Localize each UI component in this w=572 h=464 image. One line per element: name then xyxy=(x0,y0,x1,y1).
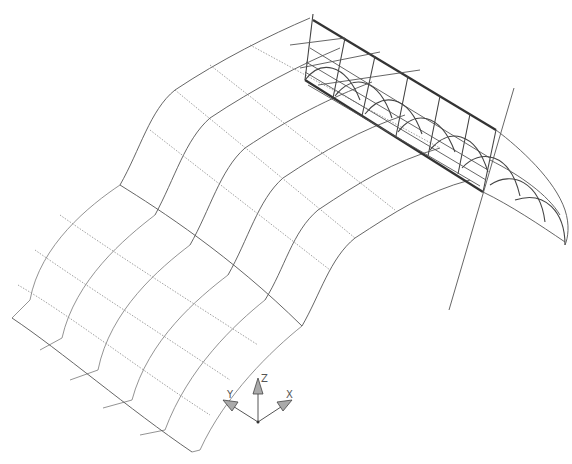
ucs-origin xyxy=(257,421,260,424)
lower-curve xyxy=(70,245,190,380)
end-arch-edge xyxy=(496,130,568,245)
end-arch-edge xyxy=(483,192,565,242)
box-diagonal xyxy=(290,38,345,45)
lower-curve xyxy=(12,185,120,318)
upper-curve xyxy=(120,18,310,185)
arch xyxy=(462,156,520,196)
x-label: X xyxy=(286,389,293,400)
box-end xyxy=(305,14,313,80)
drawing-canvas[interactable]: Z X Y xyxy=(0,0,572,464)
end-arch-edge xyxy=(490,160,560,215)
lower-cross-line xyxy=(120,185,302,326)
z-label: Z xyxy=(261,373,268,384)
upper-curve xyxy=(265,148,440,300)
upper-curve xyxy=(228,115,405,275)
y-arrow-icon xyxy=(223,400,238,411)
arch xyxy=(305,67,360,100)
arch xyxy=(398,118,455,152)
ucs-icon: Z X Y xyxy=(223,373,293,424)
box-longitudinal xyxy=(305,72,486,180)
lower-cross-line xyxy=(60,215,258,345)
box-longitudinal xyxy=(306,62,488,170)
box-rib xyxy=(458,114,470,174)
lower-curve xyxy=(103,275,228,408)
lower-cross-line xyxy=(35,250,230,380)
upper-surface xyxy=(120,18,470,326)
upper-curve xyxy=(302,180,470,326)
arch xyxy=(515,198,565,245)
lower-curve xyxy=(40,215,155,350)
upper-cross-line xyxy=(150,130,330,270)
upper-cross-line xyxy=(250,45,440,148)
box-top-edge xyxy=(313,20,496,130)
upper-cross-line xyxy=(175,90,355,238)
y-label: Y xyxy=(226,389,234,400)
arch xyxy=(365,100,422,134)
x-arrow-icon xyxy=(277,400,292,411)
upper-cross-line xyxy=(210,65,395,210)
end-arch xyxy=(483,130,568,245)
